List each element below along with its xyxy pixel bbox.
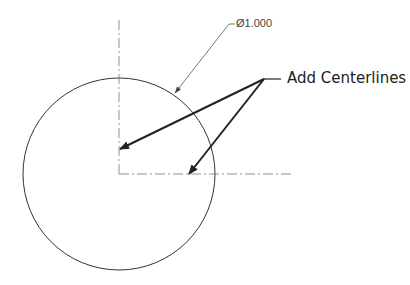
- callout-label: Add Centerlines: [287, 69, 406, 87]
- diameter-dimension-label[interactable]: Ø1.000: [236, 17, 272, 29]
- dimension-leader-line: [175, 24, 229, 93]
- callout-arrow-horizontal-centerline: [189, 79, 264, 174]
- callout-arrow-vertical-centerline: [120, 79, 264, 149]
- drawing-canvas: [0, 0, 410, 285]
